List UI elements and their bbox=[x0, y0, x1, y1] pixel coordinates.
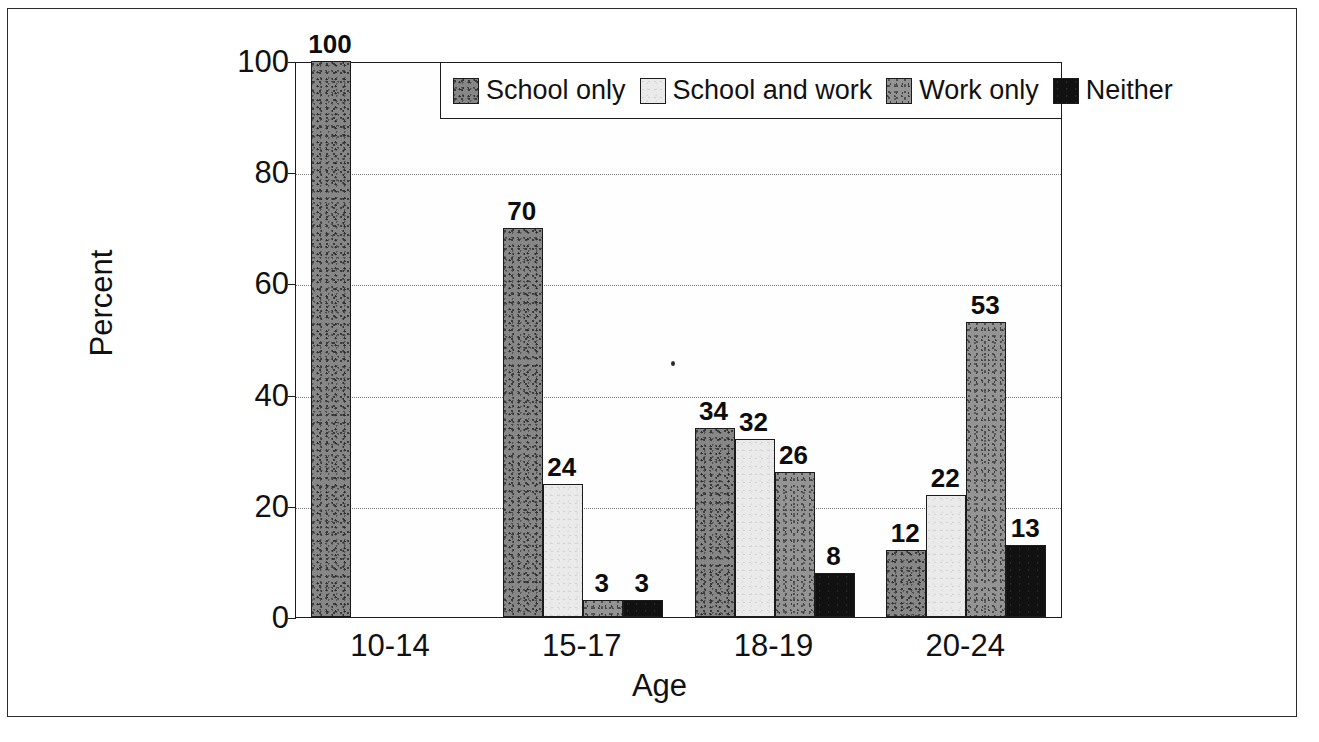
legend-label: School only bbox=[486, 77, 626, 104]
legend-label: Work only bbox=[919, 77, 1039, 104]
bar-value-label: 13 bbox=[975, 513, 1075, 544]
bar bbox=[311, 61, 351, 617]
y-tick-label: 0 bbox=[272, 602, 289, 633]
bar-chart: Percent 020406080100 1007024333432268122… bbox=[0, 0, 1319, 742]
bar bbox=[926, 495, 966, 617]
bar-value-label: 53 bbox=[935, 290, 1035, 321]
x-tick-label: 18-19 bbox=[674, 628, 874, 664]
y-tick-label: 60 bbox=[255, 268, 289, 299]
legend: School onlySchool and workWork onlyNeith… bbox=[440, 62, 1062, 119]
y-tick-label: 20 bbox=[255, 491, 289, 522]
bar-value-label: 24 bbox=[512, 452, 612, 483]
bar bbox=[623, 600, 663, 617]
bar-value-label: 26 bbox=[744, 440, 844, 471]
x-tick-label: 10-14 bbox=[290, 628, 490, 664]
y-tick-label: 40 bbox=[255, 380, 289, 411]
gridline bbox=[296, 174, 1061, 175]
legend-item[interactable]: School and work bbox=[640, 77, 873, 104]
bar-value-label: 32 bbox=[704, 407, 804, 438]
legend-swatch-icon bbox=[886, 78, 912, 104]
bar bbox=[583, 600, 623, 617]
legend-item[interactable]: Work only bbox=[886, 77, 1039, 104]
x-tick-label: 20-24 bbox=[865, 628, 1065, 664]
bar bbox=[503, 228, 543, 617]
bar-value-label: 70 bbox=[472, 196, 572, 227]
bar bbox=[886, 550, 926, 617]
x-axis-title: Age bbox=[0, 668, 1319, 704]
bar-value-label: 12 bbox=[855, 518, 955, 549]
scan-artifact-speck bbox=[671, 361, 675, 366]
legend-swatch-icon bbox=[453, 78, 479, 104]
x-tick-label: 15-17 bbox=[482, 628, 682, 664]
bar-value-label: 3 bbox=[592, 568, 692, 599]
bar-value-label: 22 bbox=[895, 463, 995, 494]
legend-label: School and work bbox=[673, 77, 873, 104]
legend-label: Neither bbox=[1086, 77, 1173, 104]
legend-swatch-icon bbox=[640, 78, 666, 104]
y-tick-label: 80 bbox=[255, 157, 289, 188]
bar-value-label: 100 bbox=[280, 29, 380, 60]
gridline bbox=[296, 285, 1061, 286]
bar bbox=[1006, 545, 1046, 617]
y-axis-title: Percent bbox=[84, 153, 120, 453]
bar bbox=[695, 428, 735, 617]
legend-item[interactable]: Neither bbox=[1053, 77, 1173, 104]
y-tick-mark bbox=[288, 618, 296, 619]
legend-swatch-icon bbox=[1053, 78, 1079, 104]
bar bbox=[815, 573, 855, 617]
legend-item[interactable]: School only bbox=[453, 77, 626, 104]
